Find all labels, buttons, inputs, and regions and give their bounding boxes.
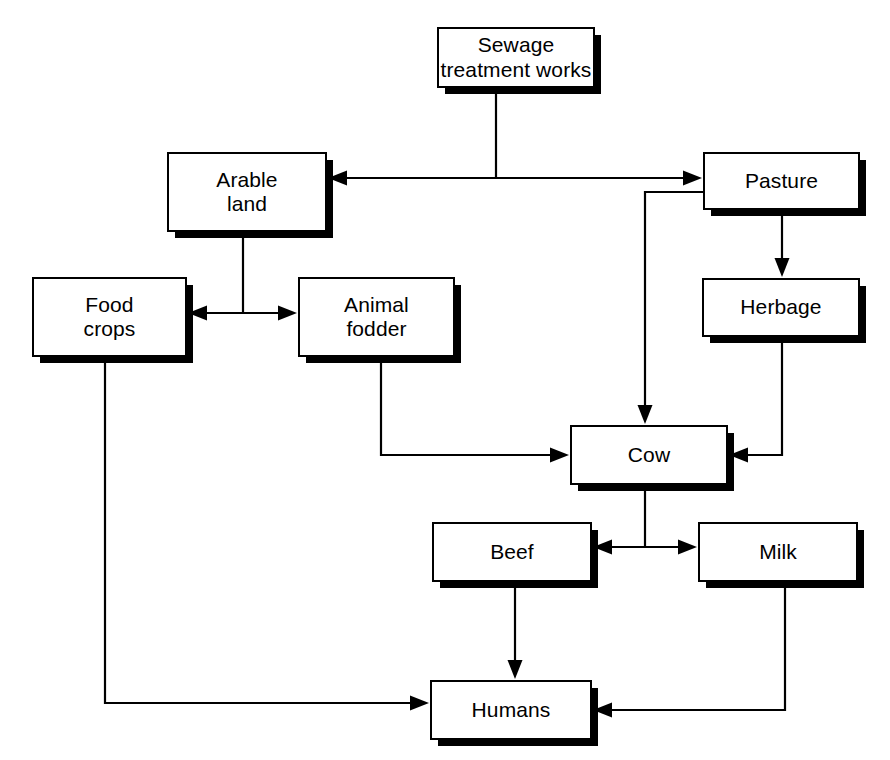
edge-pasture-to-cow [638,192,704,424]
edge-line-pasture-to-cow [645,192,703,407]
node-label-herbage: Herbage [740,295,821,319]
edge-line-food-to-humans [105,357,412,703]
edge-beef-to-humans [508,582,523,679]
node-label-fodder: Animal fodder [344,293,409,342]
edge-line-herbage-to-cow [746,337,782,455]
arrowhead-milk-to-humans [593,703,612,718]
node-cow[interactable]: Cow [570,425,728,485]
node-label-milk: Milk [759,540,797,564]
node-herbage[interactable]: Herbage [702,278,860,337]
node-pasture[interactable]: Pasture [703,152,860,210]
arrowhead-cow-to-milk [678,540,697,555]
arrowhead-sewage-to-arable [328,171,347,186]
edge-herbage-to-cow [729,337,782,463]
edge-milk-to-humans [593,582,785,718]
flow-diagram: Sewage treatment worksArable landPasture… [0,0,890,760]
arrowhead-beef-to-humans [508,660,523,679]
arrowhead-food-to-humans [410,696,429,711]
edge-sewage-to-pasture [496,171,702,186]
edge-cow-to-beef [593,485,645,555]
edge-layer [0,0,890,760]
node-label-food: Food crops [84,293,136,342]
edge-food-to-humans [105,357,429,711]
edge-sewage-to-arable [328,88,496,186]
node-humans[interactable]: Humans [430,680,592,740]
arrowhead-pasture-to-herbage [775,258,790,277]
edge-cow-to-milk [645,540,697,555]
node-arable[interactable]: Arable land [167,152,327,232]
arrowhead-cow-to-beef [593,540,612,555]
node-label-sewage: Sewage treatment works [441,33,592,82]
arrowhead-sewage-to-pasture [683,171,702,186]
edge-line-cow-to-beef [610,485,645,547]
edge-fodder-to-cow [381,357,569,463]
edge-line-arable-to-food [205,232,243,313]
arrowhead-herbage-to-cow [729,448,748,463]
node-fodder[interactable]: Animal fodder [298,277,455,357]
node-label-pasture: Pasture [745,169,818,193]
node-sewage[interactable]: Sewage treatment works [437,27,595,88]
node-milk[interactable]: Milk [698,522,858,582]
edge-line-sewage-to-arable [345,88,496,178]
node-beef[interactable]: Beef [432,522,592,582]
node-food[interactable]: Food crops [32,277,187,357]
node-label-beef: Beef [490,540,534,564]
arrowhead-pasture-to-cow [638,405,653,424]
node-label-arable: Arable land [216,168,277,217]
node-label-cow: Cow [628,443,670,467]
arrowhead-arable-to-fodder [278,306,297,321]
edge-line-fodder-to-cow [381,357,552,455]
edge-pasture-to-herbage [775,210,790,277]
edge-arable-to-food [188,232,243,321]
edge-line-milk-to-humans [610,582,785,710]
node-label-humans: Humans [472,698,551,722]
edge-arable-to-fodder [243,306,297,321]
arrowhead-fodder-to-cow [550,448,569,463]
arrowhead-arable-to-food [188,306,207,321]
